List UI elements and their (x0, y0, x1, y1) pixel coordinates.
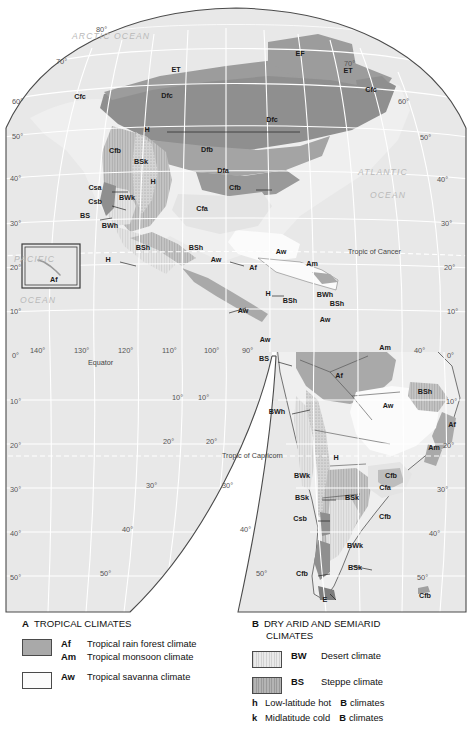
climate-label-cfb-52: Cfb (296, 569, 309, 578)
svg-text:20°: 20° (443, 441, 454, 450)
legend-line-bw: BW Desert climate (291, 650, 381, 663)
climate-label-aw-33: Aw (260, 335, 271, 344)
svg-text:30°: 30° (222, 481, 233, 490)
climate-label-ef-1: EF (295, 49, 305, 58)
svg-text:140°: 140° (30, 346, 45, 355)
climate-label-am-26: Am (306, 259, 318, 268)
climate-label-aw-38: Aw (383, 401, 394, 410)
legend-entry-bw: BW Desert climate (252, 650, 472, 668)
climate-label-csa-13: Csa (88, 183, 102, 192)
climate-label-cfb-14: Cfb (229, 183, 242, 192)
svg-text:0°: 0° (12, 351, 19, 360)
climate-label-am-34: Am (379, 343, 391, 352)
climate-label-af-40: Af (448, 420, 456, 429)
legend-note-k: k Midlatitude cold B climates (252, 711, 472, 724)
svg-text:50°: 50° (417, 573, 428, 582)
svg-text:10°: 10° (447, 307, 458, 316)
climate-label-et-2: ET (343, 66, 353, 75)
legend-desc-aw: Tropical savanna climate (87, 671, 190, 684)
climate-label-h-27: H (265, 289, 270, 298)
svg-text:10°: 10° (10, 397, 21, 406)
legend-note-k-bold: B (339, 711, 346, 724)
climate-label-bwh-39: BWh (269, 407, 285, 416)
climate-label-cfc-3: Cfc (365, 85, 377, 94)
climate-label-h-42: H (333, 453, 338, 462)
svg-text:60°: 60° (12, 97, 23, 106)
legend-b-heading: BDRY ARID AND SEMIARID (252, 618, 472, 630)
svg-text:50°: 50° (420, 133, 431, 142)
inset-label-af: Af (50, 275, 58, 284)
svg-text:30°: 30° (10, 219, 21, 228)
climate-label-cfb-54: Cfb (419, 591, 432, 600)
climate-label-cfb-44: Cfb (385, 471, 398, 480)
svg-text:130°: 130° (74, 346, 89, 355)
legend-note-h-tail: climates (350, 696, 384, 709)
legend-note-k-tail: climates (349, 711, 383, 724)
legend-note-k-key: k (252, 711, 265, 724)
legend-line-aw: Aw Tropical savanna climate (61, 671, 190, 684)
climate-label-dfc-6: Dfc (266, 115, 278, 124)
climate-label-bwh-29: BWh (317, 290, 333, 299)
svg-text:40°: 40° (429, 529, 440, 538)
svg-text:90°: 90° (242, 346, 253, 355)
climate-label-aw-31: Aw (238, 306, 249, 315)
svg-text:30°: 30° (10, 485, 21, 494)
climate-label-bs-18: BS (80, 211, 90, 220)
svg-text:40°: 40° (122, 525, 133, 534)
legend-group-a: ATROPICAL CLIMATES Af Tropical rain fore… (22, 618, 252, 689)
svg-text:10°: 10° (10, 307, 21, 316)
svg-text:50°: 50° (100, 569, 111, 578)
legend-desc-am: Tropical monsoon climate (87, 651, 193, 664)
legend-line-af: Af Tropical rain forest climate (61, 638, 197, 651)
svg-text:50°: 50° (12, 132, 23, 141)
climate-label-aw-32: Aw (320, 315, 331, 324)
legend-desc-bw: Desert climate (321, 650, 381, 663)
climate-label-cfc-4: Cfc (74, 92, 86, 101)
legend-line-bs: BS Steppe climate (291, 676, 383, 689)
svg-text:40°: 40° (437, 175, 448, 184)
svg-text:30°: 30° (437, 485, 448, 494)
climate-label-af-25: Af (249, 263, 257, 272)
climate-label-bsh-30: BSh (330, 299, 344, 308)
legend-note-h-bold: B (340, 696, 347, 709)
svg-text:Tropic of Cancer: Tropic of Cancer (348, 247, 401, 256)
svg-text:70°: 70° (56, 57, 67, 66)
svg-text:80°: 80° (96, 25, 107, 34)
climate-label-bsk-45: BSk (295, 493, 309, 502)
climate-label-bwh-19: BWh (102, 221, 118, 230)
legend-code-aw: Aw (61, 671, 87, 684)
svg-text:ATLANTIC: ATLANTIC (357, 167, 408, 177)
svg-text:20°: 20° (10, 441, 21, 450)
climate-label-bwk-16: BWk (119, 193, 135, 202)
legend-entry-bs: BS Steppe climate (252, 676, 472, 694)
svg-text:100°: 100° (204, 346, 219, 355)
svg-text:40°: 40° (10, 529, 21, 538)
climate-label-et-0: ET (171, 65, 181, 74)
legend-b-heading-line2: CLIMATES (252, 630, 472, 642)
legend-code-am: Am (61, 651, 87, 664)
legend-code-bw: BW (291, 650, 321, 663)
map-canvas: Af ARCTIC OCEAN ATLANTIC OCEAN PACIFIC O… (0, 0, 472, 618)
legend-a-heading-text: TROPICAL CLIMATES (34, 618, 132, 629)
legend-swatch-af-am (22, 639, 52, 656)
legend-b-heading-text: DRY ARID AND SEMIARID (264, 618, 380, 629)
legend-b-letter: B (252, 618, 259, 629)
svg-text:40°: 40° (240, 525, 251, 534)
climate-label-bsh-21: BSh (189, 243, 203, 252)
climate-label-dfb-9: Dfb (201, 145, 214, 154)
legend-code-bs: BS (291, 676, 321, 689)
climate-label-af-36: Af (335, 371, 343, 380)
svg-text:20°: 20° (10, 263, 21, 272)
climate-label-dfc-5: Dfc (161, 91, 173, 100)
legend-group-b: BDRY ARID AND SEMIARID CLIMATES BW Deser… (252, 618, 472, 724)
legend-note-h-text: Low-latitude hot (265, 696, 331, 709)
climate-label-bsk-46: BSk (345, 493, 359, 502)
legend-note-h: h Low-latitude hot B climates (252, 696, 472, 709)
climate-label-dfa-11: Dfa (217, 166, 230, 175)
svg-text:Equator: Equator (88, 358, 114, 367)
climate-label-bwk-50: BWk (347, 541, 363, 550)
climate-label-bsh-20: BSh (136, 243, 150, 252)
climate-label-e-53: E (323, 595, 328, 604)
svg-text:20°: 20° (206, 437, 217, 446)
legend-swatch-bs (252, 677, 282, 694)
